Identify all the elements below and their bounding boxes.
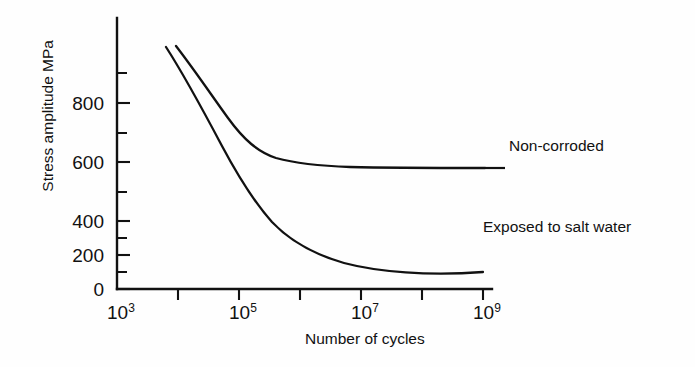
x-tick-exponent: 9	[494, 301, 501, 315]
x-tick-mantissa: 10	[473, 302, 494, 323]
y-tick-label-200: 200	[60, 246, 104, 265]
x-tick-mantissa: 10	[229, 302, 250, 323]
y-tick-label-800: 800	[60, 94, 104, 113]
x-tick-mantissa: 10	[351, 302, 372, 323]
chart-canvas	[0, 0, 695, 367]
x-axis-ticks	[178, 289, 483, 300]
sn-fatigue-chart: Stress amplitude MPa 800 600 400 200 0 1…	[0, 0, 695, 367]
y-axis-title-container: Stress amplitude MPa	[22, 40, 44, 270]
x-tick-exponent: 5	[250, 301, 257, 315]
x-tick-label-1e3: 103	[107, 303, 135, 322]
y-tick-label-600: 600	[60, 153, 104, 172]
y-axis-major-ticks	[117, 103, 130, 289]
x-tick-exponent: 7	[372, 301, 379, 315]
y-axis-title: Stress amplitude MPa	[39, 40, 57, 192]
series-label-salt-water: Exposed to salt water	[483, 218, 631, 236]
series-label-non-corroded: Non-corroded	[509, 137, 604, 155]
x-tick-mantissa: 10	[107, 302, 128, 323]
x-tick-exponent: 3	[128, 301, 135, 315]
y-tick-label-0: 0	[60, 280, 104, 299]
x-tick-label-1e9: 109	[473, 303, 501, 322]
y-tick-label-400: 400	[60, 212, 104, 231]
curve-non-corroded	[176, 46, 485, 168]
curve-salt-water	[166, 47, 483, 274]
x-tick-label-1e5: 105	[229, 303, 257, 322]
x-tick-label-1e7: 107	[351, 303, 379, 322]
x-axis-title: Number of cycles	[305, 330, 425, 348]
